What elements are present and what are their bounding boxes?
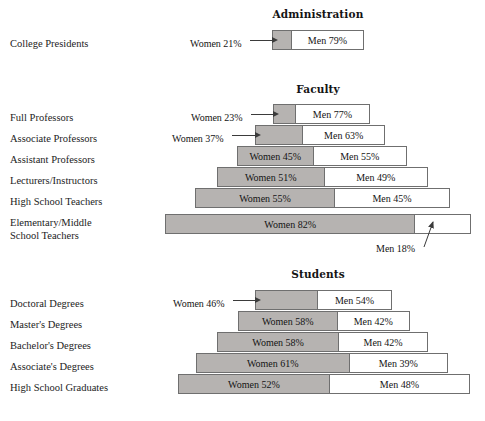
bar-segment-men-students-4: Men 48% bbox=[330, 375, 469, 393]
bar-students-2: Women 58%Men 42% bbox=[217, 332, 428, 352]
row-label-students-1: Master's Degrees bbox=[10, 319, 82, 332]
gender-distribution-pyramid-chart: AdministrationCollege PresidentsMen 79%W… bbox=[0, 0, 485, 421]
callout-women-students-0: Women 46% bbox=[173, 298, 225, 309]
bar-segment-men-students-2: Men 42% bbox=[339, 333, 427, 351]
bar-students-0: Men 54% bbox=[255, 290, 392, 310]
row-label-students-0: Doctoral Degrees bbox=[10, 298, 84, 311]
bar-segment-women-students-4: Women 52% bbox=[179, 375, 330, 393]
row-label-students-3: Associate's Degrees bbox=[10, 361, 94, 374]
bar-students-4: Women 52%Men 48% bbox=[178, 374, 470, 394]
bar-students-1: Women 58%Men 42% bbox=[238, 311, 410, 331]
bar-segment-women-students-1: Women 58% bbox=[239, 312, 338, 330]
bar-segment-women-students-3: Women 61% bbox=[197, 354, 350, 372]
leader-arrowhead-women-students-0 bbox=[255, 297, 261, 303]
bar-segment-men-students-0: Men 54% bbox=[318, 291, 391, 309]
chart-section-students: StudentsDoctoral DegreesMen 54%Women 46%… bbox=[0, 0, 485, 421]
bar-segment-women-students-0 bbox=[256, 291, 318, 309]
bar-segment-men-students-3: Men 39% bbox=[350, 354, 448, 372]
bar-segment-women-students-2: Women 58% bbox=[218, 333, 339, 351]
section-heading-students: Students bbox=[291, 268, 345, 280]
leader-line-women-students-0 bbox=[233, 300, 255, 301]
bar-students-3: Women 61%Men 39% bbox=[196, 353, 448, 373]
row-label-students-2: Bachelor's Degrees bbox=[10, 340, 91, 353]
bar-segment-men-students-1: Men 42% bbox=[338, 312, 409, 330]
row-label-students-4: High School Graduates bbox=[10, 382, 108, 395]
